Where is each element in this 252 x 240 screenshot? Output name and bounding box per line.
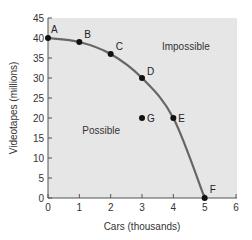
point-label-b: B	[84, 29, 91, 40]
point-b-marker	[76, 39, 82, 45]
point-label-f: F	[210, 184, 216, 195]
y-tick-label: 45	[33, 13, 45, 24]
point-label-c: C	[116, 41, 123, 52]
y-tick-label: 0	[38, 193, 44, 204]
y-tick-label: 5	[38, 173, 44, 184]
point-a-marker	[45, 35, 51, 41]
region-label-impossible: Impossible	[162, 41, 210, 52]
point-label-e: E	[178, 113, 185, 124]
point-g-marker	[139, 115, 145, 121]
point-label-g: G	[147, 113, 155, 124]
x-tick-label: 3	[139, 202, 145, 213]
point-label-a: A	[51, 24, 58, 35]
y-tick-label: 35	[33, 53, 45, 64]
x-tick-label: 4	[171, 202, 177, 213]
point-f-marker	[202, 195, 208, 201]
x-tick-label: 2	[108, 202, 114, 213]
x-tick-label: 0	[45, 202, 51, 213]
x-axis-title: Cars (thousands)	[104, 221, 181, 232]
point-label-d: D	[147, 66, 154, 77]
y-tick-label: 20	[33, 113, 45, 124]
x-tick-label: 1	[77, 202, 83, 213]
region-label-possible: Possible	[82, 125, 120, 136]
y-tick-label: 40	[33, 33, 45, 44]
ppf-chart: 0123456051015202530354045 ABCDEFG Imposs…	[0, 0, 252, 240]
y-tick-label: 25	[33, 93, 45, 104]
point-d-marker	[139, 75, 145, 81]
y-tick-label: 30	[33, 73, 45, 84]
point-e-marker	[170, 115, 176, 121]
y-tick-label: 10	[33, 153, 45, 164]
y-axis-title: Videotapes (millions)	[8, 62, 19, 155]
point-c-marker	[108, 51, 114, 57]
y-tick-label: 15	[33, 133, 45, 144]
x-tick-label: 6	[233, 202, 239, 213]
x-tick-label: 5	[202, 202, 208, 213]
